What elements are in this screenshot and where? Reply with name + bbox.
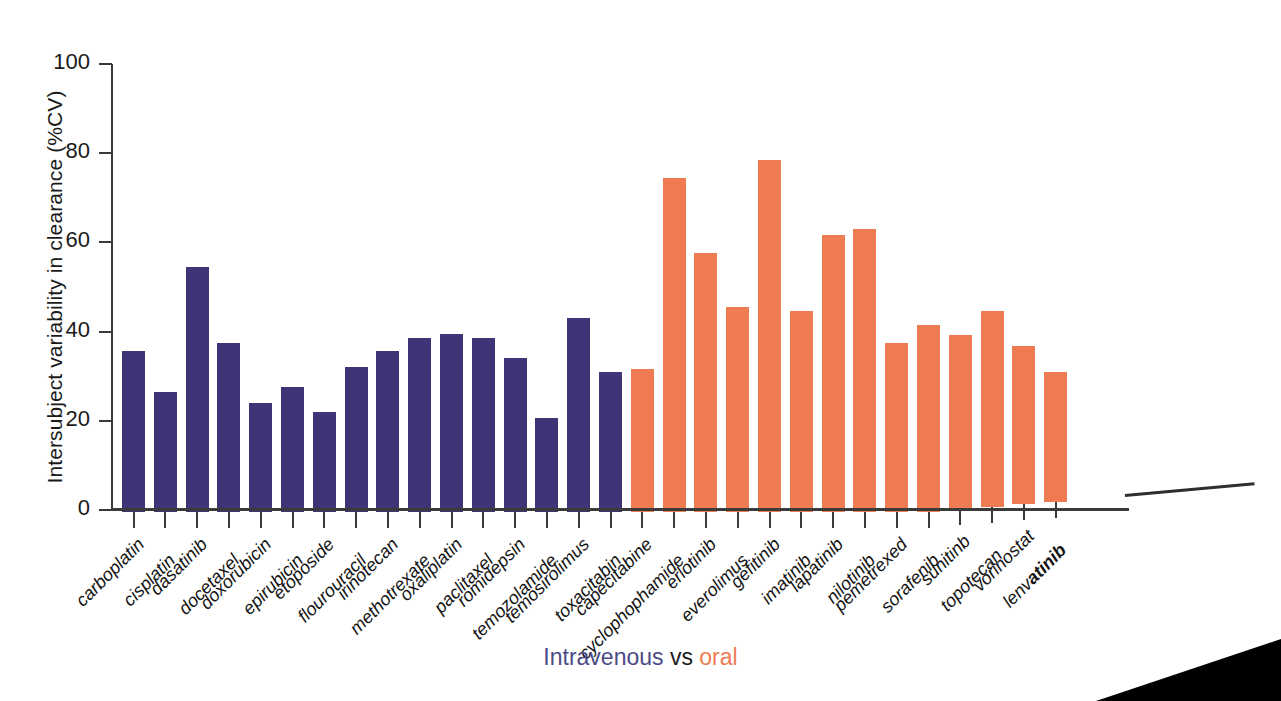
x-axis-tick <box>1055 502 1057 518</box>
y-axis-tick <box>99 420 112 422</box>
x-axis-tick <box>959 509 961 525</box>
x-axis-tick <box>800 512 802 528</box>
y-axis-tick <box>99 241 112 243</box>
x-axis-tick <box>578 512 580 528</box>
y-axis-title: Intersubject variability in clearance (%… <box>43 52 67 522</box>
bar-cyclophophamide <box>663 178 686 513</box>
bar-docetaxel <box>217 343 240 512</box>
x-axis-tick <box>737 512 739 528</box>
x-axis-tick <box>896 512 898 528</box>
y-axis-tick-label: 0 <box>30 495 90 521</box>
bar-capecitabine <box>631 369 654 512</box>
x-axis-tick <box>610 512 612 528</box>
bar-epirubicin <box>281 387 304 512</box>
x-axis-tick <box>832 512 834 528</box>
bar-doxorubicin <box>249 403 272 512</box>
legend-intravenous-label: Intravenous <box>543 644 663 670</box>
x-axis-tick <box>260 512 262 528</box>
x-axis-tick <box>228 512 230 528</box>
bar-everolimus <box>726 307 749 512</box>
bar-vorinostat <box>1012 346 1035 504</box>
x-axis-tick <box>864 512 866 528</box>
y-axis-tick-label: 40 <box>30 317 90 343</box>
bar-methotrexate <box>408 338 431 512</box>
x-axis-tick <box>196 512 198 528</box>
bar-lenvatinib <box>1044 372 1067 501</box>
bar-gefitinib <box>758 160 781 512</box>
bar-etoposide <box>313 412 336 512</box>
bar-cisplatin <box>154 392 177 512</box>
y-axis-tick <box>99 63 112 65</box>
x-axis-tick <box>1023 504 1025 520</box>
bar-erlotinib <box>694 253 717 512</box>
bar-sunitinb <box>949 335 972 509</box>
bar-topotecan <box>981 311 1004 507</box>
x-axis-tick <box>769 512 771 528</box>
bar-sorafenib <box>917 325 940 512</box>
plot-area <box>113 60 1253 512</box>
bar-temozolamide <box>535 418 558 512</box>
x-axis-tick <box>641 512 643 528</box>
bar-pemetrexed <box>885 343 908 512</box>
bar-toxacitabin <box>599 372 622 512</box>
bar-dasatinib <box>186 267 209 512</box>
x-axis-caption-legend: Intravenous vs oral <box>0 644 1281 671</box>
x-axis-tick <box>991 507 993 523</box>
y-axis-tick <box>99 152 112 154</box>
bar-carboplatin <box>122 351 145 512</box>
bar-oxaliplatin <box>440 334 463 512</box>
x-axis-tick <box>546 512 548 528</box>
y-axis-tick-label: 20 <box>30 406 90 432</box>
y-axis-tick-label: 100 <box>30 49 90 75</box>
x-axis-tick <box>133 512 135 528</box>
bar-chart-figure: Intersubject variability in clearance (%… <box>0 0 1281 701</box>
y-axis-tick-label: 80 <box>30 138 90 164</box>
x-axis-tick <box>673 512 675 528</box>
bar-flourouracil <box>345 367 368 512</box>
x-axis-tick <box>482 512 484 528</box>
bar-lapatinib <box>822 235 845 512</box>
x-axis-tick <box>292 512 294 528</box>
y-axis-tick-label: 60 <box>30 227 90 253</box>
bar-paclitaxel <box>472 338 495 512</box>
x-axis-tick <box>323 512 325 528</box>
x-axis-tick <box>705 512 707 528</box>
x-axis-tick <box>928 512 930 528</box>
legend-vs-label: vs <box>670 644 693 670</box>
bar-romidepsin <box>504 358 527 512</box>
legend-oral-label: oral <box>699 644 737 670</box>
x-axis-tick <box>419 512 421 528</box>
x-axis-tick <box>355 512 357 528</box>
y-axis-tick <box>99 331 112 333</box>
bar-irinotecan <box>376 351 399 512</box>
bar-nilotinib <box>853 229 876 512</box>
x-axis-line <box>111 508 1129 511</box>
x-axis-tick <box>514 512 516 528</box>
x-axis-tick <box>164 512 166 528</box>
x-axis-tick <box>387 512 389 528</box>
bar-temosirolimus <box>567 318 590 512</box>
bar-imatinib <box>790 311 813 512</box>
x-axis-tick <box>451 512 453 528</box>
